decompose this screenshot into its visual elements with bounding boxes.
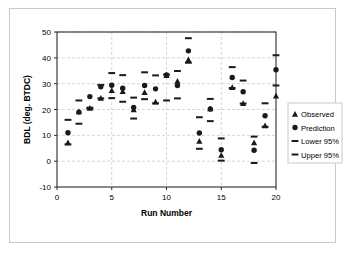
data-point	[230, 75, 235, 80]
data-point	[120, 86, 125, 91]
data-point	[240, 80, 247, 82]
data-point	[218, 137, 225, 139]
data-point	[262, 126, 269, 128]
data-point	[185, 62, 192, 64]
data-point	[131, 105, 136, 110]
legend-marker-dash	[292, 140, 299, 142]
data-point	[218, 160, 225, 162]
plot-axes: -100102030405005101520	[39, 28, 281, 202]
legend-label: Upper 95%	[301, 151, 339, 160]
data-point	[141, 71, 148, 73]
data-point	[219, 147, 224, 152]
x-tick-label: 10	[162, 193, 171, 202]
data-point	[65, 143, 72, 145]
data-point	[141, 98, 148, 100]
x-tick-label: 5	[110, 193, 115, 202]
y-tick-label: 0	[47, 157, 52, 166]
data-point	[273, 67, 278, 72]
data-point	[97, 84, 104, 86]
data-point	[273, 54, 280, 56]
data-point	[207, 120, 214, 122]
chart-legend: ObservedPredictionLower 95%Upper 95%	[288, 103, 342, 163]
series-lower-95	[65, 62, 280, 164]
data-point	[65, 130, 70, 135]
data-point	[262, 113, 267, 118]
data-point	[240, 89, 245, 94]
legend-marker-dash	[292, 154, 299, 156]
data-point	[262, 102, 269, 104]
data-point	[76, 109, 81, 114]
data-point	[130, 118, 137, 120]
data-point	[229, 66, 236, 68]
y-tick-label: 20	[42, 106, 51, 115]
y-tick-label: 50	[42, 28, 51, 37]
data-point	[76, 123, 83, 125]
data-point	[97, 97, 104, 99]
data-point	[273, 93, 279, 99]
data-point	[186, 48, 191, 53]
scatter-plot: -100102030405005101520Run NumberBDL (deg…	[0, 0, 347, 253]
data-point	[108, 72, 115, 74]
series-upper-95	[65, 37, 280, 139]
data-point	[86, 107, 93, 109]
data-point	[207, 98, 214, 100]
series-prediction	[65, 48, 278, 153]
data-points	[65, 37, 280, 164]
data-point	[196, 148, 203, 150]
data-point	[251, 139, 257, 145]
legend-label: Prediction	[301, 124, 335, 133]
x-tick-label: 0	[55, 193, 60, 202]
data-point	[130, 97, 137, 99]
data-point	[185, 57, 191, 63]
series-observed	[65, 57, 279, 158]
legend-marker-circle	[292, 125, 297, 130]
data-point	[273, 84, 280, 86]
data-point	[163, 99, 170, 101]
data-point	[174, 97, 181, 99]
data-point	[218, 152, 224, 158]
data-point	[153, 86, 158, 91]
data-point	[174, 70, 181, 72]
data-point	[240, 103, 247, 105]
data-point	[197, 130, 202, 135]
data-point	[65, 119, 72, 121]
y-axis-title: BDL (deg. BTDC)	[22, 75, 32, 144]
data-point	[152, 74, 159, 76]
data-point	[251, 136, 258, 138]
data-point	[208, 106, 213, 111]
data-point	[163, 74, 170, 76]
data-point	[108, 97, 115, 99]
y-tick-label: 40	[42, 54, 51, 63]
data-point	[185, 37, 192, 39]
data-point	[196, 138, 202, 144]
y-tick-label: -10	[39, 183, 51, 192]
y-tick-label: 30	[42, 80, 51, 89]
data-point	[251, 162, 258, 164]
x-tick-label: 20	[272, 193, 281, 202]
data-point	[119, 74, 126, 76]
data-point	[175, 83, 180, 88]
data-point	[229, 87, 236, 89]
data-point	[109, 87, 115, 93]
legend-label: Lower 95%	[301, 137, 339, 146]
data-point	[119, 101, 126, 103]
chart-figure: -100102030405005101520Run NumberBDL (deg…	[0, 0, 347, 253]
y-tick-label: 10	[42, 131, 51, 140]
data-point	[109, 83, 114, 88]
x-tick-label: 15	[217, 193, 226, 202]
data-point	[142, 89, 148, 95]
data-point	[76, 99, 83, 101]
data-point	[251, 148, 256, 153]
data-point	[87, 94, 92, 99]
legend-label: Observed	[301, 110, 334, 119]
data-point	[142, 83, 147, 88]
data-point	[196, 116, 203, 118]
x-axis-title: Run Number	[141, 208, 193, 218]
data-point	[152, 102, 159, 104]
